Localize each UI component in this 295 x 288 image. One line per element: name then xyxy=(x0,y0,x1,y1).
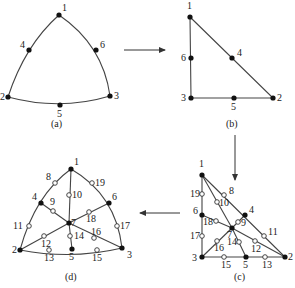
node-label-11: 11 xyxy=(13,220,23,231)
node-9-midside xyxy=(51,209,56,214)
curved-edge-1-2 xyxy=(8,15,59,97)
panel-d-nodes: 89101112131415161718191234567 xyxy=(12,156,132,263)
panel-a-nodes: 123456 xyxy=(0,2,119,119)
panel-d: 89101112131415161718191234567 (d) xyxy=(12,156,132,283)
node-14-midside xyxy=(68,234,73,239)
node-19-midside xyxy=(200,192,205,197)
node-label-9: 9 xyxy=(50,196,55,207)
caption-d: (d) xyxy=(65,271,77,283)
node-label-1: 1 xyxy=(74,156,79,167)
node-label-19: 19 xyxy=(190,188,200,199)
node-label-7: 7 xyxy=(71,217,76,228)
node-label-1: 1 xyxy=(62,2,67,13)
node-4-solid xyxy=(26,47,31,52)
node-label-6: 6 xyxy=(181,52,186,63)
node-label-5: 5 xyxy=(69,251,74,262)
node-17-midside xyxy=(200,234,205,239)
node-label-18: 18 xyxy=(203,216,213,227)
node-10-midside xyxy=(67,193,72,198)
node-label-5: 5 xyxy=(231,101,236,112)
node-6-solid xyxy=(199,212,204,217)
panel-c: 89101112131415161718191234567 (c) xyxy=(190,158,293,283)
node-1-solid xyxy=(56,12,61,17)
node-label-13: 13 xyxy=(44,252,54,263)
node-label-6: 6 xyxy=(112,191,117,202)
node-label-19: 19 xyxy=(95,177,105,188)
node-1-solid xyxy=(68,166,73,171)
node-2-solid xyxy=(270,95,275,100)
mesh-refinement-diagram: 123456 (a) 123456 (b) 891011121314151617… xyxy=(0,0,295,288)
node-label-7: 7 xyxy=(227,229,232,240)
node-14-midside xyxy=(237,240,242,245)
node-1-solid xyxy=(199,172,204,177)
node-label-12: 12 xyxy=(251,243,261,254)
node-label-18: 18 xyxy=(86,213,96,224)
node-label-2: 2 xyxy=(0,91,5,102)
node-label-3: 3 xyxy=(192,252,197,263)
panel-a: 123456 (a) xyxy=(0,2,119,130)
node-label-15: 15 xyxy=(221,259,231,270)
node-label-17: 17 xyxy=(190,230,200,241)
node-label-1: 1 xyxy=(199,158,204,169)
node-8-midside xyxy=(53,181,58,186)
caption-b: (b) xyxy=(226,118,238,130)
node-3-solid xyxy=(188,95,193,100)
node-label-6: 6 xyxy=(100,39,105,50)
node-4-solid xyxy=(229,55,234,60)
curved-edge-1-3 xyxy=(59,15,110,96)
edge-4-7 xyxy=(41,203,69,223)
node-18-midside xyxy=(214,219,219,224)
panel-b: 123456 (b) xyxy=(181,0,282,130)
node-label-16: 16 xyxy=(91,226,101,237)
curved-edge-2-3 xyxy=(8,96,110,104)
node-label-4: 4 xyxy=(32,191,37,202)
node-label-2: 2 xyxy=(288,251,293,262)
caption-a: (a) xyxy=(51,118,62,130)
node-label-3: 3 xyxy=(127,249,132,260)
node-4-solid xyxy=(38,200,43,205)
node-6-solid xyxy=(188,55,193,60)
node-label-16: 16 xyxy=(214,242,224,253)
node-3-solid xyxy=(199,254,204,259)
node-19-midside xyxy=(90,181,95,186)
node-3-solid xyxy=(119,245,124,250)
node-label-10: 10 xyxy=(219,197,229,208)
node-11-midside xyxy=(262,234,267,239)
node-label-4: 4 xyxy=(237,47,242,58)
node-label-8: 8 xyxy=(229,185,234,196)
node-label-2: 2 xyxy=(12,244,17,255)
node-label-11: 11 xyxy=(268,226,278,237)
node-3-solid xyxy=(107,93,112,98)
node-5-solid xyxy=(57,102,62,107)
node-2-solid xyxy=(17,247,22,252)
node-11-midside xyxy=(27,224,32,229)
node-label-4: 4 xyxy=(20,39,25,50)
node-label-1: 1 xyxy=(187,0,192,11)
node-label-14: 14 xyxy=(74,230,84,241)
node-label-13: 13 xyxy=(262,259,272,270)
node-5-solid xyxy=(231,95,236,100)
node-9-midside xyxy=(236,220,241,225)
node-2-solid xyxy=(5,94,10,99)
node-label-10: 10 xyxy=(72,189,82,200)
node-6-solid xyxy=(93,47,98,52)
node-4-solid xyxy=(242,212,247,217)
node-label-6: 6 xyxy=(193,205,198,216)
node-label-4: 4 xyxy=(249,204,254,215)
node-label-3: 3 xyxy=(114,90,119,101)
node-6-solid xyxy=(106,200,111,205)
node-label-5: 5 xyxy=(243,259,248,270)
node-17-midside xyxy=(115,224,120,229)
node-label-2: 2 xyxy=(277,92,282,103)
node-1-solid xyxy=(187,14,192,19)
panel-b-nodes: 123456 xyxy=(181,0,282,112)
node-label-17: 17 xyxy=(120,220,130,231)
node-label-8: 8 xyxy=(46,171,51,182)
node-label-15: 15 xyxy=(92,252,102,263)
node-label-9: 9 xyxy=(241,217,246,228)
node-label-3: 3 xyxy=(181,92,186,103)
caption-c: (c) xyxy=(234,271,245,283)
node-2-solid xyxy=(282,254,287,259)
